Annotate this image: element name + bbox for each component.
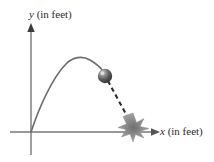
y-axis-unit: (in feet) xyxy=(37,8,72,20)
ball-marker xyxy=(98,69,112,83)
figure-canvas xyxy=(0,0,214,162)
y-axis-label: y (in feet) xyxy=(29,9,72,20)
y-axis-arrow-icon xyxy=(27,23,34,32)
projectile-motion-figure: y (in feet) x (in feet) xyxy=(0,0,214,162)
impact-splash-icon xyxy=(118,113,149,142)
x-axis-label: x (in feet) xyxy=(160,126,203,137)
x-axis-unit: (in feet) xyxy=(168,125,203,137)
x-axis-arrow-icon xyxy=(151,128,160,136)
trajectory-solid-curve xyxy=(31,57,103,132)
trajectory-group xyxy=(31,57,134,132)
